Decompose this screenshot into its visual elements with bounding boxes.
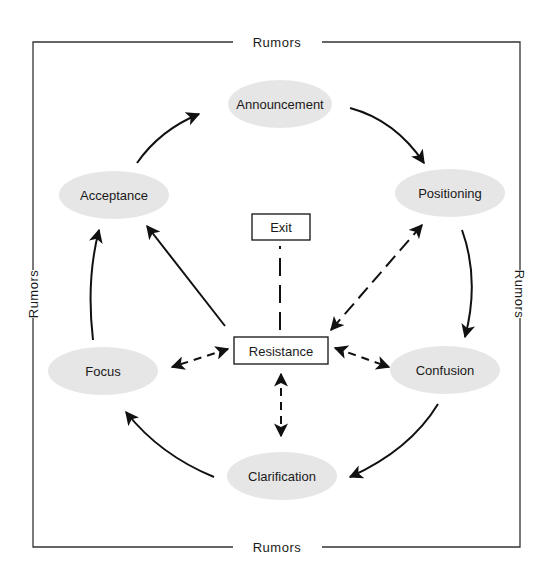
frame-label-left: Rumors xyxy=(26,270,41,319)
node-exit: Exit xyxy=(252,214,310,240)
arrow-resistance-focus xyxy=(172,349,228,367)
arrow-resistance-to-acceptance xyxy=(147,226,225,326)
node-confusion: Confusion xyxy=(390,346,500,394)
frame-label-bottom: Rumors xyxy=(253,540,302,555)
node-label: Clarification xyxy=(248,469,316,484)
node-positioning: Positioning xyxy=(395,169,505,217)
frame-label-right: Rumors xyxy=(512,270,527,319)
node-announcement: Announcement xyxy=(228,80,332,128)
node-resistance: Resistance xyxy=(234,337,328,364)
arrow-resistance-confusion xyxy=(335,348,389,367)
change-cycle-diagram: Rumors Rumors Rumors Rumors Announcement… xyxy=(0,0,555,581)
node-label: Announcement xyxy=(236,97,324,112)
node-focus: Focus xyxy=(48,347,158,395)
arrow-resistance-positioning xyxy=(331,225,422,330)
node-label: Acceptance xyxy=(80,188,148,203)
node-label: Exit xyxy=(270,220,292,235)
node-label: Focus xyxy=(85,364,121,379)
node-clarification: Clarification xyxy=(227,452,337,500)
arrow-clarification-to-focus xyxy=(126,412,214,477)
node-label: Confusion xyxy=(416,363,475,378)
arrow-positioning-to-confusion xyxy=(462,230,472,337)
node-label: Resistance xyxy=(249,344,313,359)
arrow-focus-to-acceptance xyxy=(91,230,99,340)
node-label: Positioning xyxy=(418,186,482,201)
arrow-confusion-to-clarification xyxy=(350,404,438,477)
arrow-announcement-to-positioning xyxy=(350,108,424,163)
arrow-acceptance-to-announcement xyxy=(137,114,199,163)
node-acceptance: Acceptance xyxy=(59,171,169,219)
frame-label-top: Rumors xyxy=(253,35,302,50)
